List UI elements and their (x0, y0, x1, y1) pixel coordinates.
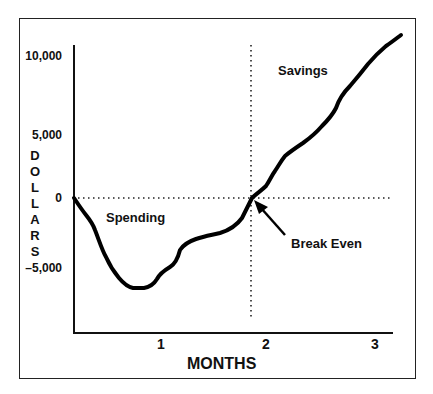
y-axis-label-letter: L (28, 180, 42, 196)
x-tick-2: 2 (262, 336, 270, 352)
x-tick-3: 3 (371, 336, 379, 352)
y-axis-label-letter: L (28, 196, 42, 212)
savings-annotation: Savings (278, 63, 328, 78)
y-tick-minus-5000: –5,000 (6, 261, 62, 275)
break-even-annotation: Break Even (291, 236, 362, 251)
x-tick-1: 1 (157, 336, 165, 352)
y-axis-label-letter: O (28, 164, 42, 180)
y-axis-label-letter: S (28, 244, 42, 260)
y-axis-label-letter: D (28, 148, 42, 164)
chart-plot (0, 0, 433, 394)
y-tick-5000: 5,000 (6, 128, 62, 142)
break-even-arrow-shaft (261, 208, 285, 235)
y-axis-label-letter: A (28, 212, 42, 228)
y-tick-10000: 10,000 (6, 49, 62, 63)
x-axis-label: MONTHS (187, 355, 256, 373)
y-axis-label-letter: R (28, 228, 42, 244)
spending-annotation: Spending (106, 210, 165, 225)
